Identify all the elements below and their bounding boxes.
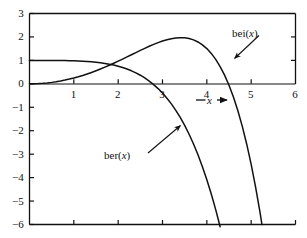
x-tick-label-2: 2 <box>115 89 121 100</box>
y-tick-label--2: −2 <box>0 125 24 136</box>
x-tick-label-3: 3 <box>159 89 165 100</box>
x-axis-ticks <box>74 79 251 84</box>
x-tick-label-6: 6 <box>292 89 298 100</box>
ber-curve-label: ber(x) <box>104 150 130 161</box>
y-tick-label-1: 1 <box>0 55 24 66</box>
y-tick-label--4: −4 <box>0 172 24 183</box>
right-axis-ticks <box>291 37 296 60</box>
kelvin-functions-figure: 3210−1−2−3−4−5−6 123456 bei(x) ber(x) x <box>0 0 307 238</box>
ber-leader-line <box>148 126 181 154</box>
curve-ber <box>30 60 221 226</box>
y-tick-label--1: −1 <box>0 102 24 113</box>
y-tick-label--5: −5 <box>0 196 24 207</box>
y-axis-ticks <box>30 14 35 225</box>
x-tick-label-1: 1 <box>71 89 77 100</box>
bei-label-prefix: bei( <box>232 27 249 39</box>
y-tick-label-3: 3 <box>0 8 24 19</box>
x-tick-label-5: 5 <box>248 89 254 100</box>
curve-bei <box>30 38 262 225</box>
x-axis-title-variable: x <box>207 94 212 106</box>
axes-frame <box>30 14 296 225</box>
ber-label-suffix: ) <box>127 149 131 161</box>
y-tick-label-2: 2 <box>0 31 24 42</box>
y-tick-label-0: 0 <box>0 78 24 89</box>
ber-label-prefix: ber( <box>104 149 122 161</box>
y-tick-label--3: −3 <box>0 149 24 160</box>
x-axis-title: x <box>207 95 212 106</box>
plot-canvas <box>0 0 307 238</box>
bei-label-suffix: ) <box>254 27 258 39</box>
bei-curve-label: bei(x) <box>232 28 258 39</box>
y-tick-label--6: −6 <box>0 219 24 230</box>
